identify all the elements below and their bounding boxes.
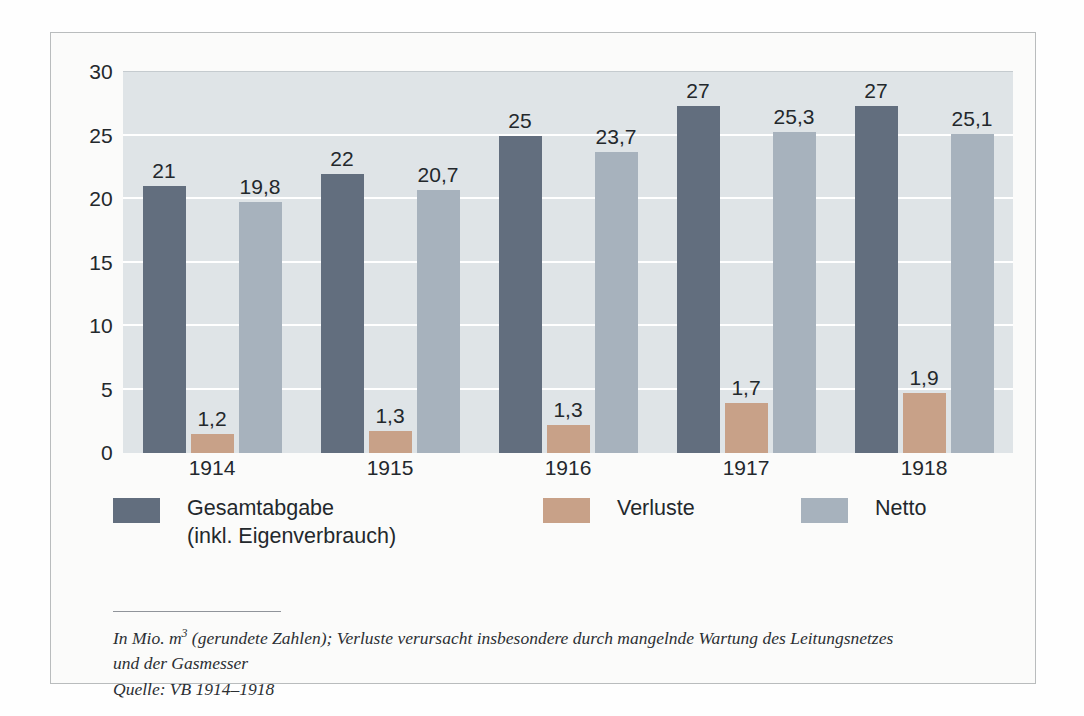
legend-item[interactable]: Verluste	[543, 495, 695, 523]
bar-value-label: 1,3	[553, 399, 582, 420]
bar[interactable]: 1,3	[369, 431, 412, 453]
x-axis-tick-label: 1915	[367, 457, 414, 478]
bar[interactable]: 25	[499, 136, 542, 454]
x-axis-tick-label: 1916	[545, 457, 592, 478]
footnote: In Mio. m3 (gerundete Zahlen); Verluste …	[113, 625, 1013, 702]
bar[interactable]: 25,1	[951, 134, 994, 453]
x-axis-tick-label: 1914	[189, 457, 236, 478]
y-axis-tick-label: 15	[51, 251, 113, 272]
y-axis-tick-label: 30	[51, 61, 113, 82]
bar[interactable]: 20,7	[417, 190, 460, 453]
bar[interactable]: 27	[855, 106, 898, 453]
bar-value-label: 19,8	[240, 176, 281, 197]
x-axis-tick-label: 1917	[723, 457, 770, 478]
footnote-divider	[113, 611, 281, 612]
footnote-line-1-rest: (gerundete Zahlen); Verluste verursacht …	[187, 628, 893, 648]
plot-area: 211,219,8221,320,7251,323,7271,725,3271,…	[123, 71, 1013, 453]
figure-page: 051015202530 211,219,8221,320,7251,323,7…	[0, 0, 1084, 716]
bar-value-label: 23,7	[596, 126, 637, 147]
bar-group: 251,323,7	[499, 72, 638, 453]
bar-group: 221,320,7	[321, 72, 460, 453]
legend-item[interactable]: Gesamtabgabe (inkl. Eigenverbrauch)	[113, 495, 396, 550]
bar-value-label: 1,9	[909, 367, 938, 388]
bar[interactable]: 21	[143, 186, 186, 453]
chart-legend: Gesamtabgabe (inkl. Eigenverbrauch)Verlu…	[113, 495, 1013, 575]
y-axis-tick-label: 5	[51, 378, 113, 399]
legend-item[interactable]: Netto	[801, 495, 926, 523]
bar-value-label: 1,3	[375, 405, 404, 426]
x-axis: 19141915191619171918	[123, 457, 1013, 489]
bar[interactable]: 1,9	[903, 393, 946, 453]
bar[interactable]: 1,3	[547, 425, 590, 453]
y-axis-tick-label: 20	[51, 188, 113, 209]
bar-value-label: 21	[152, 160, 175, 181]
bar-value-label: 27	[864, 80, 887, 101]
bar[interactable]: 22	[321, 174, 364, 453]
bar[interactable]: 25,3	[773, 132, 816, 453]
bar[interactable]: 19,8	[239, 202, 282, 453]
y-axis-tick-label: 0	[51, 442, 113, 463]
figure-card: 051015202530 211,219,8221,320,7251,323,7…	[50, 32, 1036, 684]
bar-group: 271,925,1	[855, 72, 994, 453]
bar-value-label: 1,2	[197, 408, 226, 429]
bar-group: 271,725,3	[677, 72, 816, 453]
bar-value-label: 20,7	[418, 164, 459, 185]
legend-swatch	[801, 498, 848, 523]
legend-label: Gesamtabgabe (inkl. Eigenverbrauch)	[187, 495, 396, 550]
bar[interactable]: 1,7	[725, 403, 768, 453]
bar-value-label: 1,7	[731, 377, 760, 398]
y-axis-tick-label: 10	[51, 315, 113, 336]
bar-group: 211,219,8	[143, 72, 282, 453]
footnote-line-1-prefix: In Mio. m	[113, 628, 182, 648]
bar[interactable]: 27	[677, 106, 720, 453]
legend-swatch	[113, 498, 160, 523]
x-axis-tick-label: 1918	[901, 457, 948, 478]
footnote-line-3: Quelle: VB 1914–1918	[113, 677, 1013, 702]
legend-label: Verluste	[617, 495, 695, 523]
footnote-line-2: und der Gasmesser	[113, 651, 1013, 676]
y-axis: 051015202530	[51, 33, 113, 473]
legend-swatch	[543, 498, 590, 523]
bar-chart: 051015202530 211,219,8221,320,7251,323,7…	[51, 33, 1037, 473]
bar-value-label: 27	[686, 80, 709, 101]
bar-value-label: 25	[508, 110, 531, 131]
footnote-line-1: In Mio. m3 (gerundete Zahlen); Verluste …	[113, 625, 1013, 651]
bar-value-label: 25,1	[952, 108, 993, 129]
bar-value-label: 25,3	[774, 106, 815, 127]
legend-label: Netto	[875, 495, 926, 523]
y-axis-tick-label: 25	[51, 124, 113, 145]
bar[interactable]: 23,7	[595, 152, 638, 453]
bar[interactable]: 1,2	[191, 434, 234, 453]
bar-value-label: 22	[330, 148, 353, 169]
